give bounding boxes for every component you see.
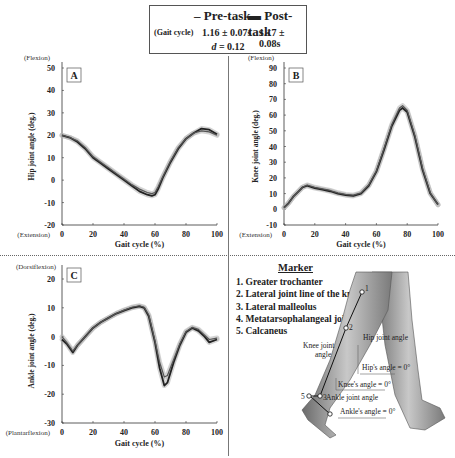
marker-num-5: 5 [301, 392, 305, 401]
knee-joint-angle-label-1: Knee joint [303, 341, 335, 350]
hip-joint-angle-label: Hip joint angle [363, 333, 409, 342]
marker-point-4 [328, 412, 332, 416]
ankle-joint-angle-label: Ankle joint angle [326, 393, 379, 402]
marker-point-1 [360, 290, 364, 294]
marker-point-3 [318, 394, 322, 398]
ankles-angle-zero-label: Ankle's angle = 0° [340, 407, 395, 416]
knees-angle-zero-label: Knee's angle = 0° [338, 380, 391, 389]
leg-illustration: 1 2 3 5 Hip joint angle Knee joint angle… [0, 0, 455, 458]
marker-point-2 [344, 326, 348, 330]
marker-num-2: 2 [349, 323, 353, 332]
marker-point-5 [307, 394, 311, 398]
knee-joint-angle-label-2: angle [315, 350, 332, 359]
hips-angle-zero-label: Hip's angle = 0° [362, 363, 410, 372]
marker-num-1: 1 [365, 284, 369, 293]
